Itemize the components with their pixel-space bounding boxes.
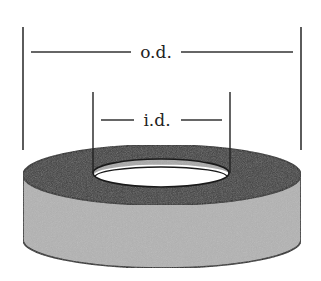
ring-hole bbox=[93, 159, 229, 187]
od-label: o.d. bbox=[140, 42, 172, 62]
id-label: i.d. bbox=[143, 110, 170, 130]
washer-diagram: o.d. i.d. bbox=[0, 0, 321, 281]
